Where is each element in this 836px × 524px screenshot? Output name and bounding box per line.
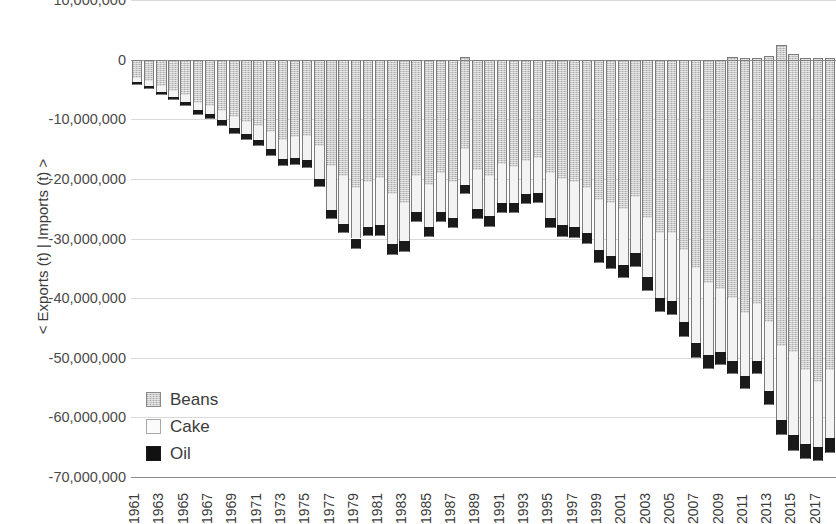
bar-segment-beans <box>375 60 385 178</box>
x-axis-line <box>131 477 836 478</box>
bar-segment-beans <box>302 60 312 136</box>
bar-segment-cake <box>266 132 276 149</box>
bar-segment-beans <box>727 60 737 299</box>
bar-segment-cake <box>594 200 604 251</box>
bar-segment-oil <box>618 265 628 278</box>
bar-2011 <box>740 0 750 477</box>
bar-segment-beans <box>691 60 701 269</box>
bar-2009 <box>715 0 725 477</box>
bar-segment-oil <box>460 185 470 195</box>
bar-2002 <box>630 0 640 477</box>
bar-segment-cake <box>545 173 555 218</box>
bar-segment-oil <box>764 391 774 405</box>
bar-segment-beans <box>472 60 482 170</box>
bar-segment-cake <box>752 304 762 361</box>
bar-segment-beans <box>351 60 361 188</box>
bar-segment-oil <box>715 352 725 366</box>
bar-segment-beans <box>776 60 786 346</box>
bar-segment-cake <box>740 313 750 376</box>
bar-1985 <box>424 0 434 477</box>
bar-segment-cake <box>788 352 798 435</box>
bar-segment-cake <box>411 176 421 212</box>
bar-segment-beans-positive <box>788 54 798 59</box>
bar-segment-cake <box>338 176 348 224</box>
x-axis-tick-2001: 2001 <box>612 493 628 524</box>
bar-1995 <box>545 0 555 477</box>
bar-segment-oil <box>727 361 737 375</box>
bar-segment-oil <box>399 241 409 252</box>
bar-segment-beans-positive <box>825 58 835 60</box>
bar-segment-cake <box>205 106 215 114</box>
bar-segment-cake <box>497 164 507 203</box>
bar-segment-cake <box>193 103 203 111</box>
bar-segment-beans <box>217 60 227 111</box>
bar-segment-oil <box>557 225 567 236</box>
y-axis-tick-8: -70,000,000 <box>8 469 126 485</box>
bar-segment-beans <box>314 60 324 146</box>
bar-segment-cake <box>424 185 434 227</box>
legend-item-cake: Cake <box>146 413 296 440</box>
bar-segment-oil <box>594 250 604 263</box>
bar-segment-cake <box>314 146 324 179</box>
bar-1981 <box>375 0 385 477</box>
bar-segment-beans <box>484 60 494 176</box>
bar-segment-cake <box>655 233 665 299</box>
chart-legend: Beans Cake Oil <box>146 386 296 467</box>
bar-segment-oil <box>545 218 555 229</box>
bar-segment-beans <box>679 60 689 251</box>
bar-2000 <box>606 0 616 477</box>
bar-segment-beans <box>630 60 640 197</box>
bar-segment-oil <box>229 128 239 133</box>
bar-segment-oil <box>180 102 190 106</box>
bar-segment-oil <box>800 444 810 459</box>
x-axis-tick-2005: 2005 <box>661 493 677 524</box>
bar-segment-cake <box>436 173 446 212</box>
bar-segment-beans <box>193 60 203 103</box>
bar-segment-beans <box>399 60 409 203</box>
bar-2007 <box>691 0 701 477</box>
bar-segment-cake <box>618 209 628 266</box>
bar-segment-oil <box>314 179 324 187</box>
bar-1996 <box>557 0 567 477</box>
bar-segment-cake <box>557 179 567 226</box>
y-axis-tick-2: -10,000,000 <box>8 111 126 127</box>
bar-segment-oil <box>326 210 336 219</box>
bar-segment-cake <box>642 218 652 278</box>
bar-segment-beans <box>557 60 567 179</box>
bar-segment-beans <box>156 60 166 87</box>
legend-swatch-beans-icon <box>146 392 161 407</box>
bar-segment-oil <box>302 160 312 168</box>
bar-segment-cake <box>278 140 288 159</box>
bar-segment-beans <box>752 60 762 304</box>
bar-segment-beans <box>509 60 519 167</box>
x-axis-tick-1983: 1983 <box>393 493 409 524</box>
bar-2010 <box>727 0 737 477</box>
x-axis-tick-labels: 1961196319651967196919711973197519771979… <box>131 479 836 524</box>
bar-segment-oil <box>509 203 519 213</box>
bar-segment-beans-positive <box>776 45 786 59</box>
bar-1993 <box>521 0 531 477</box>
bar-segment-cake <box>764 322 774 391</box>
bar-segment-beans <box>338 60 348 176</box>
bar-2003 <box>642 0 652 477</box>
bar-segment-oil <box>752 361 762 374</box>
bar-segment-cake <box>776 346 786 421</box>
bar-2018 <box>825 0 835 477</box>
bar-1983 <box>399 0 409 477</box>
x-axis-tick-1961: 1961 <box>126 493 142 524</box>
bar-segment-cake <box>448 182 458 218</box>
bar-1998 <box>582 0 592 477</box>
bar-segment-beans <box>667 60 677 233</box>
bar-segment-oil <box>156 92 166 96</box>
bar-segment-cake <box>533 158 543 193</box>
bar-2005 <box>667 0 677 477</box>
bar-segment-oil <box>351 239 361 249</box>
bar-segment-beans <box>740 60 750 313</box>
bar-segment-beans <box>205 60 215 107</box>
bar-segment-cake <box>715 289 725 352</box>
bar-segment-oil <box>205 114 215 119</box>
bar-segment-cake <box>679 250 689 322</box>
x-axis-tick-2007: 2007 <box>685 493 701 524</box>
legend-swatch-cake-icon <box>146 419 161 434</box>
x-axis-tick-1993: 1993 <box>515 493 531 524</box>
